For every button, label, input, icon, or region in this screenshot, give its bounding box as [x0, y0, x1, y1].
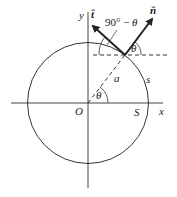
origin-label: O — [75, 105, 83, 117]
radius-a-label: a — [114, 72, 120, 84]
arc-s-label: s — [146, 73, 150, 85]
theta-point-label: θ — [131, 42, 137, 54]
normal-vector-label: n̂ — [150, 4, 156, 16]
theta-center-label: θ — [96, 89, 102, 101]
x-axis-label: x — [158, 105, 164, 117]
complement-arc — [99, 37, 105, 55]
tangent-vector-arrow — [93, 26, 125, 55]
y-axis-label: y — [78, 9, 84, 21]
complement-angle-label: 90° − θ — [105, 16, 138, 28]
circle-diagram: y x O S s a θ θ 90° − θ t̂ n̂ — [0, 0, 177, 197]
point-s-label: S — [134, 106, 140, 118]
tangent-vector-label: t̂ — [91, 8, 95, 20]
